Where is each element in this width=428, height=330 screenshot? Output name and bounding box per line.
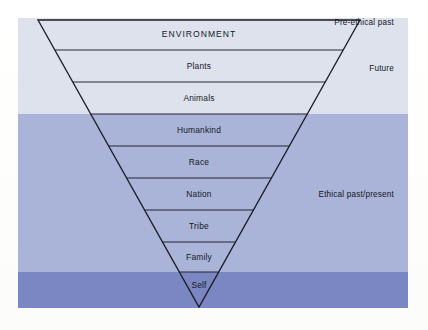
triangle-row-label-self: Self (191, 280, 206, 290)
triangle-row-label-nation: Nation (186, 189, 211, 199)
triangle-row-label-family: Family (186, 252, 212, 262)
triangle-row-label-environment: ENVIRONMENT (162, 29, 237, 39)
figure-container: Future Ethical past/present Pre-ethical … (0, 0, 428, 330)
triangle-row-label-plants: Plants (187, 61, 211, 71)
triangle-outline (0, 0, 428, 330)
triangle-row-label-race: Race (189, 157, 209, 167)
triangle-row-label-animals: Animals (183, 93, 214, 103)
triangle-row-label-tribe: Tribe (189, 221, 209, 231)
triangle-row-label-humankind: Humankind (177, 125, 221, 135)
